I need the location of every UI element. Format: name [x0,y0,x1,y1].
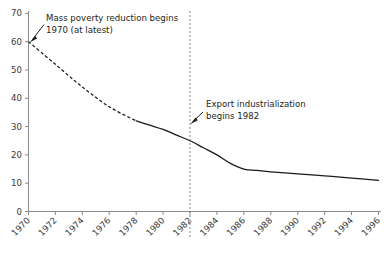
chart-background [0,0,391,253]
y-tick-label: 30 [11,122,22,132]
annotation-text-line-1: Mass poverty reduction begins [46,13,179,23]
annotation-text-line-2: 1970 (at latest) [46,25,113,35]
y-tick-label: 40 [11,93,22,103]
y-tick-label: 10 [11,178,22,188]
chart-container: 0 10 20 30 40 50 60 70 1970 [0,0,391,253]
y-tick-label: 20 [11,150,22,160]
poverty-reduction-line-chart: 0 10 20 30 40 50 60 70 1970 [0,0,391,253]
annotation-text-line-2: begins 1982 [206,111,259,121]
y-tick-label: 60 [11,37,22,47]
y-tick-label: 50 [11,65,22,75]
y-tick-label: 70 [11,8,22,18]
annotation-text-line-1: Export industrialization [206,99,306,109]
y-tick-label: 0 [17,207,22,217]
